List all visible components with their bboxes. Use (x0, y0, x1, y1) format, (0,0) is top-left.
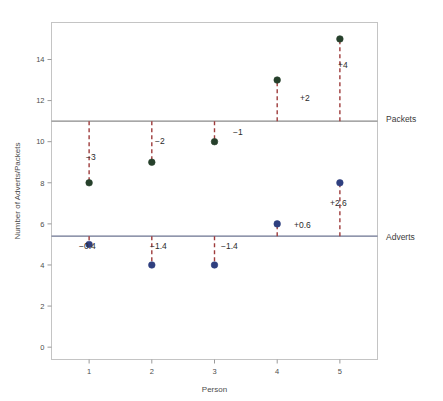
data-point[interactable] (337, 36, 344, 43)
x-tick-label: 3 (212, 367, 216, 376)
x-tick-label: 2 (150, 367, 154, 376)
y-tick-label: 0 (40, 343, 44, 352)
y-tick-label: 12 (36, 96, 44, 105)
x-tick-label: 5 (338, 367, 342, 376)
residual-label: −1 (233, 127, 243, 137)
data-point[interactable] (211, 262, 218, 269)
residual-label: −1.4 (150, 241, 167, 251)
data-point[interactable] (274, 77, 281, 84)
residual-label: +2 (300, 93, 310, 103)
scatter-plot: 02468101214 12345 Person Number of Adver… (0, 0, 443, 401)
residual-label: −1.4 (221, 241, 238, 251)
y-tick-label: 2 (40, 302, 44, 311)
residual-label: −0.4 (79, 241, 96, 251)
data-point[interactable] (274, 221, 281, 228)
data-point[interactable] (337, 179, 344, 186)
residual-label: −3 (86, 152, 96, 162)
y-tick-label: 10 (36, 137, 44, 146)
chart-container: 02468101214 12345 Person Number of Adver… (0, 0, 443, 401)
y-axis-title: Number of Adverts/Packets (13, 143, 22, 240)
y-tick-label: 6 (40, 220, 44, 229)
data-point[interactable] (149, 159, 156, 166)
x-tick-label: 4 (275, 367, 279, 376)
x-axis-title: Person (202, 385, 227, 394)
residual-label: +0.6 (294, 220, 311, 230)
residual-label: −2 (155, 136, 165, 146)
x-tick-label: 1 (87, 367, 91, 376)
data-point[interactable] (86, 179, 93, 186)
plot-background (0, 0, 443, 401)
data-point[interactable] (149, 262, 156, 269)
y-tick-label: 14 (36, 55, 44, 64)
data-point[interactable] (211, 138, 218, 145)
y-tick-label: 4 (40, 261, 44, 270)
residual-label: +4 (338, 60, 348, 70)
y-tick-label: 8 (40, 179, 44, 188)
packets-reference-label: Packets (386, 114, 416, 124)
residual-label: +2.6 (330, 198, 347, 208)
adverts-reference-label: Adverts (386, 232, 415, 242)
